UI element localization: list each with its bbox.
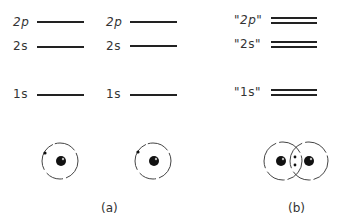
nucleus	[149, 156, 159, 166]
atom-drawings	[0, 0, 343, 222]
molecule	[264, 142, 328, 180]
caption-b: (b)	[288, 201, 305, 215]
shared-electron-dot	[294, 164, 297, 167]
nucleus-highlight	[282, 158, 284, 160]
electron-dot	[136, 150, 139, 153]
nucleus-highlight	[155, 158, 157, 160]
nucleus-left	[276, 156, 286, 166]
nucleus-right	[304, 156, 314, 166]
atom-left	[42, 143, 78, 179]
nucleus-highlight	[310, 158, 312, 160]
caption-a: (a)	[101, 201, 118, 215]
atom-right	[135, 143, 171, 179]
nucleus-highlight	[62, 158, 64, 160]
nucleus	[56, 156, 66, 166]
electron-dot	[43, 151, 46, 154]
shared-electron-dot	[294, 156, 297, 159]
